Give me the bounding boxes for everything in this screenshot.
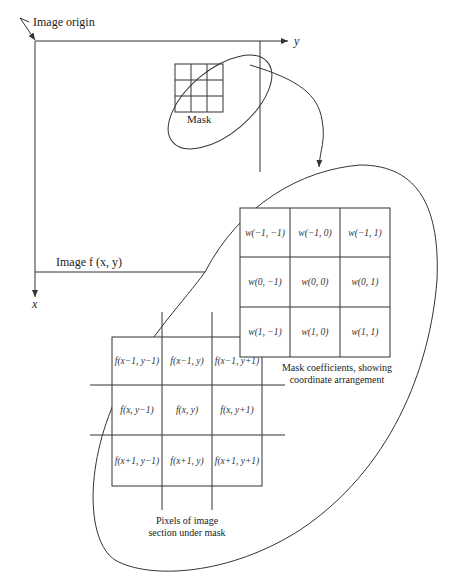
mask-cell: w(0, −1) [240,257,290,307]
image-fxy-label: Image f (x, y) [56,256,122,268]
pixel-cell: f(x, y) [162,385,212,435]
image-pixels-caption: Pixels of image section under mask [112,515,262,539]
mask-cell: w(0, 1) [340,257,390,307]
mask-cell: w(1, 0) [290,307,340,357]
x-axis-label: x [32,298,37,310]
mask-cell: w(−1, 0) [290,208,340,257]
mask-label: Mask [187,114,211,125]
mask-cell: w(0, 0) [290,257,340,307]
y-axis-label: y [294,35,299,47]
pixel-cell: f(x−1, y−1) [112,337,162,385]
pixel-cell: f(x, y−1) [112,385,162,435]
pixel-cell: f(x+1, y+1) [212,435,262,486]
mask-cell: w(1, 1) [340,307,390,357]
pixel-cell: f(x+1, y−1) [112,435,162,486]
pixel-cell: f(x, y+1) [212,385,262,435]
mask-cell: w(−1, 1) [340,208,390,257]
pixel-cell: f(x−1, y+1) [212,337,262,385]
mask-cell: w(−1, −1) [240,208,290,257]
mask-coefficients-caption: Mask coefficients, showing coordinate ar… [262,362,412,386]
pixel-cell: f(x+1, y) [162,435,212,486]
image-origin-label: Image origin [33,16,95,28]
pixel-cell: f(x−1, y) [162,337,212,385]
